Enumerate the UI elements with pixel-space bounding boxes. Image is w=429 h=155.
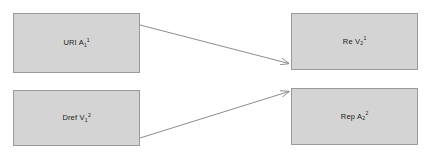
edge-uri-to-re (140, 25, 289, 64)
node-rep-label: Rep A22 (341, 113, 368, 121)
node-re-subscript: 2 (360, 40, 363, 46)
node-dref-superscript: 2 (88, 112, 91, 118)
node-uri-label: URI A11 (63, 39, 89, 47)
node-dref[interactable]: Dref V12 (13, 90, 140, 146)
node-rep-superscript: 2 (365, 110, 368, 116)
node-rep-subscript: 2 (362, 115, 365, 121)
node-re-superscript: 1 (363, 35, 366, 41)
node-dref-label: Dref V12 (62, 114, 90, 122)
diagram-canvas: URI A11 Dref V12 Re V21 Rep A22 (0, 0, 429, 155)
node-rep[interactable]: Rep A22 (291, 88, 418, 145)
node-re-label: Re V21 (343, 38, 366, 46)
node-uri[interactable]: URI A11 (13, 13, 140, 73)
edge-dref-to-rep (140, 92, 289, 139)
node-uri-superscript: 1 (87, 37, 90, 43)
node-re[interactable]: Re V21 (291, 13, 418, 70)
